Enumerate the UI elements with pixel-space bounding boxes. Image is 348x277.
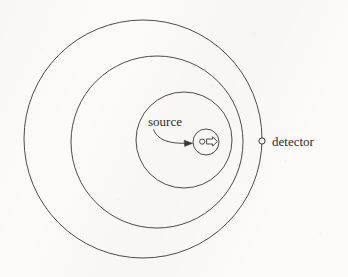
- source-particle-circle: [193, 129, 219, 155]
- source-leader-arrowhead-icon: [184, 140, 192, 146]
- concentric-circles-diagram: source detector: [0, 0, 348, 277]
- velocity-arrow-icon: [207, 137, 218, 146]
- source-leader-arrow: [154, 130, 186, 144]
- source-label: source: [148, 114, 182, 129]
- source-particle-dot: [200, 139, 205, 144]
- figure-canvas: source detector: [0, 0, 348, 277]
- outer-wavefront-circle: [24, 20, 262, 258]
- detector-point-icon: [259, 138, 265, 144]
- detector-label: detector: [272, 134, 315, 149]
